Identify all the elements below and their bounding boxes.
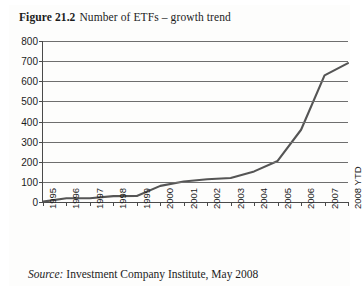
y-axis-tick-mark xyxy=(39,182,43,183)
gridline xyxy=(43,142,348,143)
y-axis-tick-mark xyxy=(39,162,43,163)
gridline xyxy=(43,101,348,102)
source-label: Source: xyxy=(28,268,63,280)
gridline xyxy=(43,81,348,82)
gridline xyxy=(43,61,348,62)
x-axis-tick-label: 1996 xyxy=(70,188,81,209)
x-axis-tick-label: 1998 xyxy=(117,188,128,209)
y-axis-tick-label: 0 xyxy=(32,197,38,208)
x-axis-tick-label: 1997 xyxy=(94,188,105,209)
gridline xyxy=(43,182,348,183)
gridline xyxy=(43,41,348,42)
x-axis-tick-mark xyxy=(184,202,185,206)
x-axis-tick-label: 2005 xyxy=(282,188,293,209)
x-axis-tick-mark xyxy=(113,202,114,206)
y-axis-tick-label: 800 xyxy=(21,36,38,47)
x-axis-tick-mark xyxy=(66,202,67,206)
y-axis-tick-mark xyxy=(39,61,43,62)
figure-number: Figure 21.2 xyxy=(19,11,75,23)
x-axis-tick-label: 2004 xyxy=(258,188,269,209)
x-axis-tick-label: 1999 xyxy=(141,188,152,209)
x-axis-tick-mark xyxy=(348,202,349,206)
x-axis-tick-label: 2001 xyxy=(188,188,199,209)
x-axis-tick-label: 2002 xyxy=(211,188,222,209)
y-axis-tick-label: 300 xyxy=(21,136,38,147)
x-axis-tick-mark xyxy=(278,202,279,206)
y-axis-tick-label: 700 xyxy=(21,56,38,67)
y-axis-tick-label: 100 xyxy=(21,176,38,187)
x-axis-tick-mark xyxy=(325,202,326,206)
y-axis-tick-label: 400 xyxy=(21,116,38,127)
x-axis-tick-label: 2007 xyxy=(329,188,340,209)
x-axis-tick-mark xyxy=(231,202,232,206)
figure-title: Number of ETFs – growth trend xyxy=(79,11,230,23)
x-axis-tick-mark xyxy=(254,202,255,206)
y-axis-tick-label: 600 xyxy=(21,76,38,87)
figure-frame: Figure 21.2Number of ETFs – growth trend… xyxy=(9,5,350,286)
x-axis-tick-mark xyxy=(137,202,138,206)
x-axis-tick-label: 2003 xyxy=(235,188,246,209)
x-axis-tick-mark xyxy=(301,202,302,206)
y-axis-tick-mark xyxy=(39,81,43,82)
x-axis-tick-label: 2006 xyxy=(305,188,316,209)
y-axis-tick-label: 500 xyxy=(21,96,38,107)
x-axis-tick-label: 2000 xyxy=(164,188,175,209)
chart-plot-wrapper: 0100200300400500600700800199519961997199… xyxy=(9,33,350,251)
source-text: Investment Company Institute, May 2008 xyxy=(66,268,258,280)
x-axis-tick-label: 1995 xyxy=(47,188,58,209)
y-axis-tick-mark xyxy=(39,122,43,123)
y-axis-tick-mark xyxy=(39,142,43,143)
gridline xyxy=(43,162,348,163)
y-axis-tick-label: 200 xyxy=(21,156,38,167)
x-axis-tick-mark xyxy=(90,202,91,206)
x-axis-tick-mark xyxy=(207,202,208,206)
figure-caption: Figure 21.2Number of ETFs – growth trend xyxy=(19,11,339,31)
x-axis-tick-mark xyxy=(160,202,161,206)
data-line xyxy=(43,63,348,201)
y-axis-tick-mark xyxy=(39,41,43,42)
chart-plot-area: 0100200300400500600700800199519961997199… xyxy=(42,41,348,203)
source-note: Source:Investment Company Institute, May… xyxy=(28,268,258,280)
y-axis-tick-mark xyxy=(39,101,43,102)
x-axis-tick-label: 2008 YTD xyxy=(352,166,363,209)
x-axis-tick-mark xyxy=(43,202,44,206)
gridline xyxy=(43,122,348,123)
